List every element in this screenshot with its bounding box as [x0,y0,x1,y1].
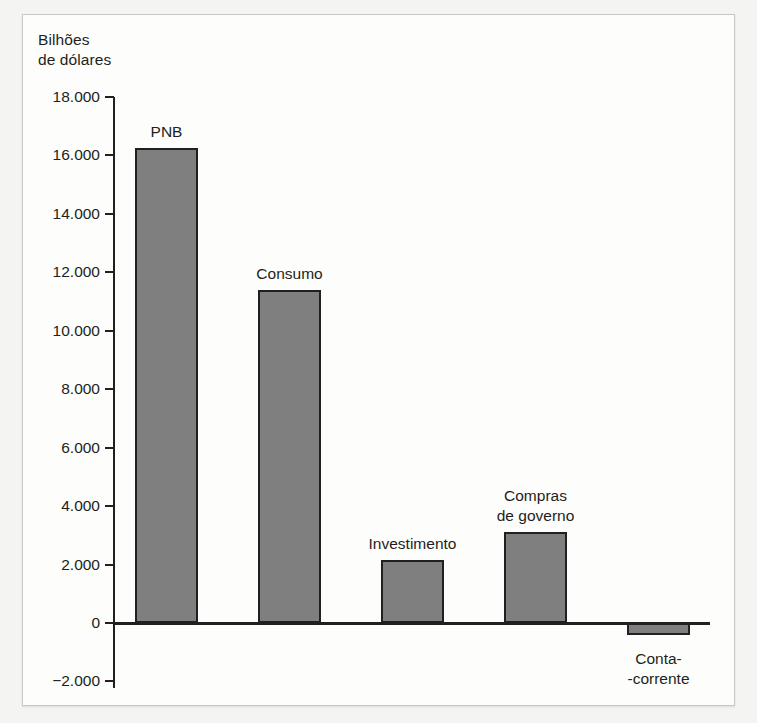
bar-label: PNB [92,122,242,142]
y-tick-mark [105,505,114,507]
y-tick-label: 12.000 [28,263,100,281]
y-tick-label: 6.000 [28,439,100,457]
bar-label: Investimento [338,534,488,554]
bar-label: Consumo [215,264,365,284]
bar [135,148,198,623]
y-tick-mark [105,213,114,215]
y-tick-label: −2.000 [28,672,100,690]
bar-label: Conta- -corrente [584,649,734,689]
y-tick-label: 4.000 [28,497,100,515]
y-tick-label: 14.000 [28,205,100,223]
bar [504,532,567,623]
y-tick-mark [105,447,114,449]
y-tick-mark [105,330,114,332]
y-axis-line [113,97,115,688]
y-tick-mark [105,680,114,682]
bar [258,290,321,623]
y-tick-mark [105,388,114,390]
bar [627,623,690,635]
y-tick-label: 10.000 [28,322,100,340]
bar-label: Compras de governo [461,486,611,526]
y-tick-label: 0 [28,614,100,632]
y-tick-mark [105,271,114,273]
y-tick-label: 2.000 [28,556,100,574]
y-tick-mark [105,622,114,624]
y-tick-label: 8.000 [28,380,100,398]
y-tick-label: 18.000 [28,88,100,106]
bar [381,560,444,623]
y-tick-mark [105,564,114,566]
y-tick-label: 16.000 [28,146,100,164]
y-tick-mark [105,154,114,156]
y-tick-mark [105,96,114,98]
chart-page: Bilhões de dólares 18.00016.00014.00012.… [0,0,757,723]
plot-area: 18.00016.00014.00012.00010.0008.0006.000… [0,0,757,723]
